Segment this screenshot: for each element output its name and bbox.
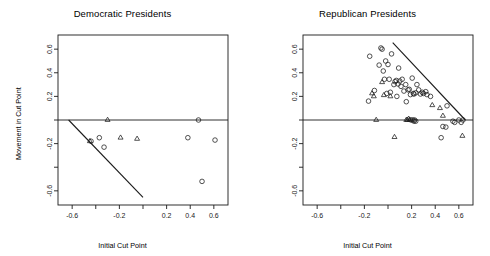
y-tick-label: -0.2	[46, 137, 53, 149]
data-point-circle	[381, 69, 386, 74]
data-point-circle	[186, 135, 191, 140]
series-circles	[366, 46, 465, 140]
data-point-triangle	[460, 133, 465, 137]
series-circles	[89, 118, 218, 184]
x-tick-label: 0.6	[209, 212, 219, 219]
data-point-circle	[399, 84, 404, 89]
x-tick-label: 0.4	[185, 212, 195, 219]
data-point-triangle	[381, 92, 386, 96]
data-point-circle	[444, 125, 449, 130]
data-point-circle	[213, 138, 218, 143]
y-tick-label: 0.2	[291, 91, 298, 101]
data-point-triangle	[371, 94, 376, 98]
data-point-circle	[387, 77, 392, 82]
data-point-circle	[395, 94, 400, 99]
y-axis-title-democratic: Movement in Cut Point	[14, 87, 23, 160]
x-tick-label: 0.2	[162, 212, 172, 219]
y-tick-label: 0.2	[46, 91, 53, 101]
y-tick-label: -0.6	[46, 185, 53, 197]
panel-democratic-presidents: Democratic Presidents -0.6-0.20.20.40.6-…	[0, 0, 245, 256]
data-point-circle	[439, 135, 444, 140]
data-point-circle	[102, 145, 107, 150]
x-tick-label: 0.2	[407, 212, 417, 219]
scatter-plot-republican: -0.6-0.20.20.40.6-0.6-0.20.20.40.6	[245, 0, 490, 256]
data-point-triangle	[440, 113, 445, 117]
data-point-circle	[379, 46, 384, 51]
panel-republican-presidents: Republican Presidents -0.6-0.20.20.40.6-…	[245, 0, 490, 256]
data-point-circle	[404, 99, 409, 104]
y-tick-label: -0.6	[291, 185, 298, 197]
y-tick-label: 0.4	[291, 68, 298, 78]
x-axis-title-democratic: Initial Cut Point	[0, 241, 245, 250]
data-point-circle	[389, 52, 394, 57]
y-tick-label: 0.6	[46, 44, 53, 54]
data-point-triangle	[374, 117, 379, 121]
data-point-triangle	[430, 102, 435, 106]
data-point-triangle	[392, 134, 397, 138]
data-point-circle	[377, 63, 382, 68]
data-point-triangle	[105, 117, 110, 121]
data-point-circle	[200, 179, 205, 184]
data-point-circle	[367, 54, 372, 59]
x-tick-label: -0.2	[358, 212, 370, 219]
data-point-triangle	[437, 105, 442, 109]
figure-root: Democratic Presidents -0.6-0.20.20.40.6-…	[0, 0, 490, 256]
x-tick-label: -0.2	[113, 212, 125, 219]
data-point-triangle	[135, 136, 140, 140]
x-tick-label: -0.6	[311, 212, 323, 219]
data-point-circle	[366, 99, 371, 104]
constraint-boundary-line	[69, 120, 143, 197]
data-point-triangle	[118, 135, 123, 139]
data-point-circle	[380, 47, 385, 52]
data-point-circle	[403, 82, 408, 87]
x-axis-title-republican: Initial Cut Point	[245, 241, 490, 250]
x-tick-label: 0.4	[430, 212, 440, 219]
series-triangles	[87, 117, 139, 142]
y-tick-label: 0.4	[46, 68, 53, 78]
data-point-circle	[386, 62, 391, 67]
scatter-plot-democratic: -0.6-0.20.20.40.6-0.6-0.20.20.40.6	[0, 0, 245, 256]
data-point-circle	[97, 135, 102, 140]
y-tick-label: 0.6	[291, 44, 298, 54]
data-point-circle	[396, 66, 401, 71]
x-tick-label: -0.6	[66, 212, 78, 219]
x-tick-label: 0.6	[454, 212, 464, 219]
data-point-circle	[445, 104, 450, 109]
data-point-circle	[415, 82, 420, 87]
data-point-circle	[393, 79, 398, 84]
y-tick-label: -0.2	[291, 137, 298, 149]
data-point-circle	[410, 76, 415, 81]
